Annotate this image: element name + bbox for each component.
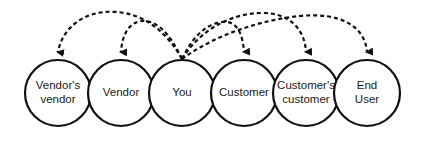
node-vendor: Vendor: [88, 60, 154, 126]
node-customers-customer: Customer's customer: [273, 60, 339, 126]
node-label-line-2: customer: [282, 93, 329, 105]
edge-you-to-end-user: [182, 15, 367, 59]
edges: [58, 12, 367, 59]
node-label: Vendor: [103, 86, 140, 98]
node-label: You: [172, 86, 191, 98]
node-label-line-2: User: [355, 93, 379, 105]
node-end-user: End User: [334, 60, 400, 126]
node-you: You: [149, 60, 215, 126]
node-label: Customer: [219, 86, 269, 98]
value-chain-diagram: Vendor's vendor Vendor You Customer Cust…: [0, 0, 426, 141]
node-vendors-vendor: Vendor's vendor: [25, 60, 91, 126]
edge-you-to-customers-customer: [182, 13, 306, 59]
edge-you-to-vendor: [121, 21, 182, 59]
node-label-line-2: vendor: [40, 93, 75, 105]
node-label-line-1: Customer's: [277, 79, 335, 91]
node-label-line-1: Vendor's: [36, 79, 81, 91]
node-customer: Customer: [211, 60, 277, 126]
node-label-line-1: End: [357, 79, 377, 91]
